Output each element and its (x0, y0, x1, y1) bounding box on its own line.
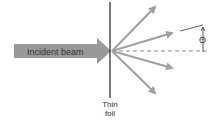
foil-label-line1: Thin (102, 100, 118, 109)
scattering-diagram: Incident beam Θ Thin foil (0, 0, 214, 122)
scattered-rays (112, 7, 172, 93)
incident-beam-label: Incident beam (27, 47, 84, 57)
foil-label-line2: foil (105, 109, 115, 118)
theta-symbol: Θ (199, 35, 206, 45)
